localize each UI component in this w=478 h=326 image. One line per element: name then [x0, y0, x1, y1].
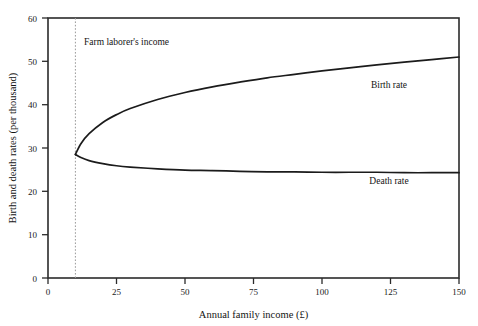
y-axis-tick-labels: 0 10 20 30 40 50 60 [28, 14, 38, 284]
death-rate-curve [75, 155, 459, 173]
x-tick-label: 100 [315, 287, 329, 297]
y-axis-title: Birth and death rates (per thousand) [7, 72, 19, 223]
x-axis-title: Annual family income (£) [199, 309, 309, 321]
y-tick-label: 50 [28, 57, 38, 67]
x-tick-label: 50 [181, 287, 191, 297]
y-tick-label: 0 [33, 274, 38, 284]
x-axis-tick-labels: 0 25 50 75 100 125 150 [46, 287, 467, 297]
x-tick-label: 25 [112, 287, 122, 297]
x-axis-ticks [48, 278, 459, 284]
y-tick-label: 20 [28, 187, 38, 197]
birth-rate-label: Birth rate [371, 80, 407, 90]
y-tick-label: 30 [28, 144, 38, 154]
x-tick-label: 150 [452, 287, 466, 297]
x-tick-label: 125 [384, 287, 398, 297]
y-tick-label: 60 [28, 14, 38, 24]
y-tick-label: 40 [28, 100, 38, 110]
x-tick-label: 0 [46, 287, 51, 297]
y-axis-ticks [42, 18, 48, 278]
y-tick-label: 10 [28, 230, 38, 240]
plot-frame [48, 18, 459, 278]
farm-laborer-income-annotation: Farm laborer's income [84, 37, 169, 47]
birth-rate-curve [75, 57, 459, 155]
death-rate-label: Death rate [369, 176, 408, 186]
chart-figure: 0 10 20 30 40 50 60 0 25 50 75 100 125 1… [0, 0, 478, 326]
chart-svg: 0 10 20 30 40 50 60 0 25 50 75 100 125 1… [0, 0, 478, 326]
x-tick-label: 75 [249, 287, 259, 297]
